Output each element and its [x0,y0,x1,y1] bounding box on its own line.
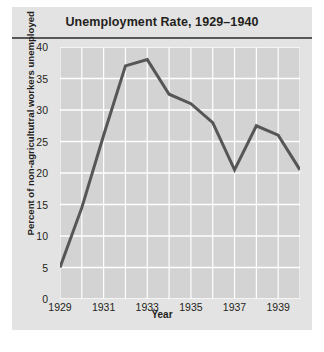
y-tick-label: 25 [8,136,48,148]
x-tick-label: 1935 [168,301,214,313]
plot-svg [60,47,300,299]
chart-title: Unemployment Rate, 1929–1940 [65,15,258,29]
y-gridlines [60,47,300,299]
chart-title-bar: Unemployment Rate, 1929–1940 [12,7,312,37]
y-tick-label: 40 [8,41,48,53]
title-divider [12,37,312,39]
y-tick-label: 5 [8,262,48,274]
y-tick-label: 10 [8,230,48,242]
x-tick-label: 1933 [124,301,170,313]
x-tick-label: 1929 [37,301,83,313]
y-tick-label: 30 [8,104,48,116]
x-tick-label: 1937 [212,301,258,313]
y-tick-label: 20 [8,167,48,179]
y-tick-label: 15 [8,199,48,211]
y-tick-label: 35 [8,73,48,85]
x-tick-label: 1931 [81,301,127,313]
chart-figure: Unemployment Rate, 1929–1940 Percent of … [12,7,312,330]
plot-wrapper: 0510152025303540 19291931193319351937193… [60,47,300,299]
x-tick-label: 1939 [255,301,301,313]
